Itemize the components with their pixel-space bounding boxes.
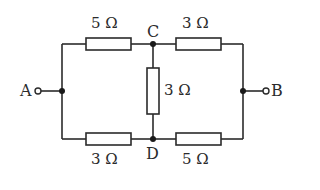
label-resistor-db: 5 Ω [182, 152, 209, 167]
junction-a [59, 88, 65, 94]
label-resistor-cd: 3 Ω [164, 83, 191, 98]
label-node-a: A [20, 83, 32, 99]
resistor-cd [147, 68, 159, 114]
label-resistor-ad: 3 Ω [91, 152, 118, 167]
junction-c [150, 41, 156, 47]
junction-b [240, 88, 246, 94]
resistor-ad [86, 133, 131, 145]
terminal-b [263, 88, 269, 94]
label-node-c: C [147, 24, 159, 40]
label-resistor-ac: 5 Ω [91, 16, 118, 31]
resistor-ac [86, 38, 131, 50]
resistor-cb [176, 38, 221, 50]
label-node-d: D [146, 146, 159, 162]
terminal-a [35, 88, 41, 94]
label-node-b: B [271, 83, 283, 99]
resistor-db [176, 133, 221, 145]
label-resistor-cb: 3 Ω [182, 16, 209, 31]
junction-d [150, 136, 156, 142]
